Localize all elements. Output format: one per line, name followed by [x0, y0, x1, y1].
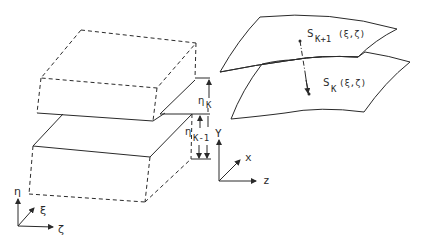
lower-block [29, 114, 211, 202]
eta-k-subscript: K [206, 100, 212, 110]
eta-k-minus-1-subscript: K-1 [193, 133, 209, 143]
computational-axes: η ξ ζ [14, 185, 64, 236]
upper-block [37, 30, 210, 121]
eta-axis-label: η [14, 185, 21, 198]
svg-text:K+1: K+1 [315, 34, 331, 44]
upper-surface [220, 15, 397, 72]
eta-k-minus-1-dimension: η K-1 [185, 116, 209, 158]
lower-surface [220, 52, 410, 119]
xi-axis-label: ξ [40, 204, 46, 217]
surface-connector [299, 40, 311, 96]
zeta-axis-label: ζ [58, 223, 64, 236]
s-k-plus-1-label: S K+1 (ξ,ζ) [307, 27, 365, 44]
x-axis-label: x [245, 151, 252, 164]
diagram-canvas: η K η K-1 η ξ ζ Y x z [0, 0, 424, 245]
svg-text:S: S [323, 76, 330, 89]
eta-k-label: η [198, 95, 204, 106]
eta-k-minus-1-label: η [185, 126, 191, 137]
svg-text:S: S [307, 27, 314, 40]
eta-k-dimension: η K [198, 80, 212, 112]
xi-axis-arrow [18, 208, 34, 226]
svg-text:K: K [331, 84, 337, 94]
zeta-axis-arrow [18, 226, 53, 227]
z-axis-label: z [263, 174, 270, 187]
physical-axes: Y x z [215, 127, 270, 187]
x-axis-arrow [219, 160, 240, 181]
svg-text:(ξ,ζ): (ξ,ζ) [338, 29, 365, 39]
svg-text:(ξ,ζ): (ξ,ζ) [339, 78, 366, 88]
s-k-label: S K (ξ,ζ) [323, 76, 366, 94]
y-axis-label: Y [215, 127, 222, 140]
